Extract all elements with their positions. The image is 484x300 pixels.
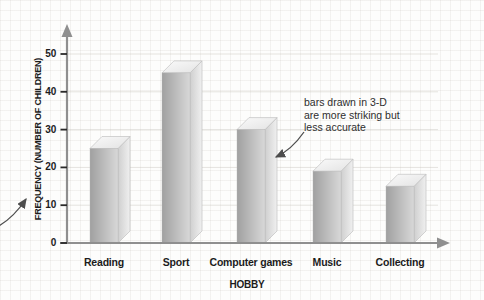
chart-canvas	[0, 0, 484, 300]
annotation-text: bars drawn in 3-D are more striking but …	[304, 96, 434, 134]
side-note-arrow	[0, 199, 26, 227]
category-label-collecting: Collecting	[355, 256, 445, 268]
bar-music	[313, 159, 353, 243]
y-tick-label-10: 10	[34, 199, 56, 210]
annotation-arrow	[276, 132, 304, 157]
x-axis-title: HOBBY	[207, 279, 287, 290]
bar-sport	[162, 61, 202, 243]
bar-computer-games	[237, 118, 277, 243]
y-tick-label-30: 30	[34, 124, 56, 135]
y-axis-arrowhead	[62, 24, 73, 37]
bar-chart-figure: FREQUENCY (NUMBER OF CHILDREN) HOBBY bar…	[0, 0, 484, 300]
bar-reading	[90, 137, 130, 244]
bar-collecting	[386, 174, 426, 243]
y-tick-label-40: 40	[34, 86, 56, 97]
y-axis	[62, 24, 73, 244]
y-tick-label-20: 20	[34, 161, 56, 172]
x-axis-arrowhead	[437, 238, 450, 249]
y-tick-label-0: 0	[34, 237, 56, 248]
y-tick-label-50: 50	[34, 48, 56, 59]
